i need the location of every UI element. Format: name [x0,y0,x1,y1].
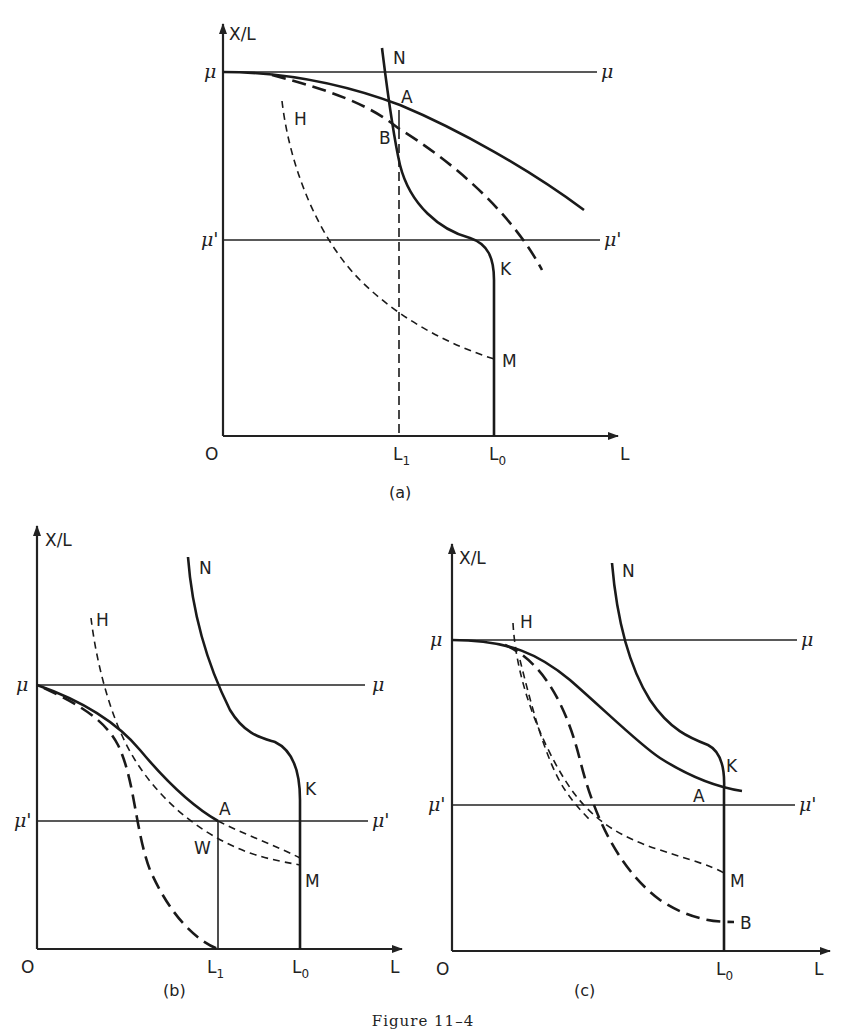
mu-label-left: μ [16,673,28,695]
label-a: A [219,799,231,819]
label-a: A [693,786,705,806]
label-n: N [393,48,406,68]
tick-l1: L1 [207,957,224,981]
label-m: M [730,871,745,891]
tick-l0: L0 [716,959,733,983]
a-dashed-curve [218,821,300,858]
label-n: N [622,561,635,581]
origin-label: O [205,444,218,464]
label-w: W [194,838,211,858]
mu-prime-label-right: μ' [799,793,817,815]
inner-dashed-curve [520,660,592,822]
label-k: K [305,779,317,799]
mu-label-right: μ [801,628,813,650]
label-m: M [305,871,320,891]
tick-l0: L0 [489,444,506,468]
figure-canvas: X/L μ μ μ' μ' N A B H K M O L1 L0 L (a) … [0,0,847,1036]
x-axis-label: L [620,444,630,464]
label-n: N [199,558,212,578]
mu-label-right: μ [372,673,384,695]
curve-to-b [505,645,734,922]
label-k: K [500,259,512,279]
label-m: M [502,351,517,371]
mu-prime-label-right: μ' [604,228,622,250]
panel-c: X/L μ μ μ' μ' N H K A M B O L0 L (c) [428,544,830,1000]
mu-label-left: μ [204,60,216,82]
y-axis-label: X/L [459,548,486,568]
label-h: H [520,612,533,632]
curve-to-l1 [44,688,218,949]
y-axis-label: X/L [229,24,256,44]
n-curve [612,563,724,951]
x-axis-label: L [390,957,400,977]
y-axis-label: X/L [45,530,72,550]
panel-b: X/L μ μ μ' μ' N H A W K M O L1 L0 L (b) [14,526,402,1000]
label-k: K [726,756,738,776]
panel-label-c: (c) [574,981,595,1000]
mu-prime-label-left: μ' [14,809,32,831]
mu-prime-label-right: μ' [372,809,390,831]
panel-a: X/L μ μ μ' μ' N A B H K M O L1 L0 L (a) [201,24,630,502]
panel-label-b: (b) [163,981,186,1000]
n-curve [188,557,300,949]
mu-prime-label-left: μ' [428,793,446,815]
tick-l0: L0 [292,957,309,981]
mu-prime-label-left: μ' [201,228,219,250]
origin-label: O [436,959,449,979]
label-a: A [401,87,413,107]
label-h: H [294,109,307,129]
x-axis-label: L [814,959,824,979]
curve-through-a [452,640,742,791]
panel-label-a: (a) [389,483,411,502]
mu-label-left: μ [430,628,442,650]
tick-l1: L1 [393,444,410,468]
mu-label-right: μ [601,60,613,82]
origin-label: O [21,957,34,977]
label-b: B [740,913,752,933]
label-h: H [96,610,109,630]
label-b: B [379,128,391,148]
figure-caption: Figure 11–4 [372,1012,474,1030]
curve-to-a [37,685,218,821]
h-m-curve [91,618,300,865]
